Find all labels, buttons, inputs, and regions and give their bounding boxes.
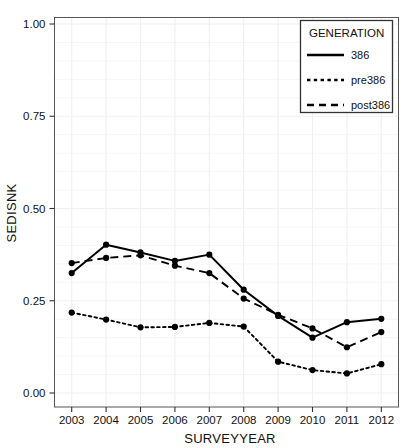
- y-tick-label: 0.75: [23, 110, 45, 122]
- data-point: [103, 255, 109, 261]
- x-tick-label: 2007: [197, 414, 223, 426]
- data-point: [378, 329, 384, 335]
- y-tick-label: 0.50: [23, 203, 45, 215]
- x-tick-label: 2010: [300, 414, 326, 426]
- data-point: [137, 252, 143, 258]
- data-point: [103, 242, 109, 248]
- data-point: [103, 316, 109, 322]
- data-point: [309, 335, 315, 341]
- data-point: [275, 359, 281, 365]
- data-point: [344, 319, 350, 325]
- x-tick-label: 2005: [128, 414, 154, 426]
- data-point: [309, 325, 315, 331]
- data-point: [172, 324, 178, 330]
- data-point: [241, 295, 247, 301]
- y-axis-label: SEDISNK: [4, 183, 19, 242]
- legend-label-pre386: pre386: [351, 74, 385, 86]
- data-point: [241, 287, 247, 293]
- y-tick-label: 0.00: [23, 387, 45, 399]
- legend: GENERATION 386pre386post386: [301, 21, 393, 113]
- y-tick-label: 1.00: [23, 18, 45, 30]
- data-point: [137, 324, 143, 330]
- data-point: [206, 320, 212, 326]
- x-tick-label: 2004: [93, 414, 119, 426]
- data-point: [344, 370, 350, 376]
- data-point: [378, 316, 384, 322]
- x-tick-label: 2006: [162, 414, 188, 426]
- data-point: [206, 252, 212, 258]
- y-tick-label: 0.25: [23, 295, 45, 307]
- data-point: [344, 344, 350, 350]
- data-point: [69, 260, 75, 266]
- legend-label-386: 386: [351, 49, 369, 61]
- data-point: [69, 270, 75, 276]
- chart-container: 0.000.250.500.751.00 2003200420052006200…: [0, 0, 407, 448]
- legend-title: GENERATION: [309, 27, 384, 39]
- data-point: [172, 263, 178, 269]
- x-axis-label: SURVEYYEAR: [184, 431, 276, 446]
- data-point: [275, 312, 281, 318]
- data-point: [206, 270, 212, 276]
- line-chart: 0.000.250.500.751.00 2003200420052006200…: [0, 0, 407, 448]
- x-tick-label: 2003: [59, 414, 85, 426]
- x-tick-label: 2012: [369, 414, 395, 426]
- x-tick-label: 2011: [335, 414, 360, 426]
- x-tick-label: 2009: [265, 414, 291, 426]
- data-point: [69, 309, 75, 315]
- x-tick-label: 2008: [231, 414, 257, 426]
- data-point: [309, 367, 315, 373]
- data-point: [241, 323, 247, 329]
- data-point: [378, 361, 384, 367]
- legend-label-post386: post386: [351, 99, 390, 111]
